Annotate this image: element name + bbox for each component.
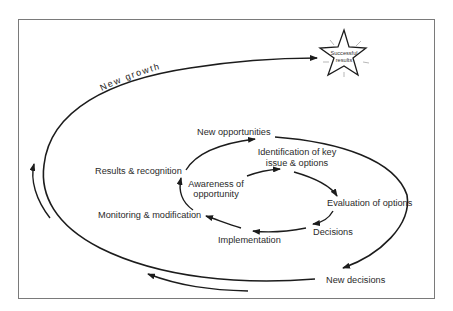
star-label-line1: Successful bbox=[330, 50, 357, 56]
implementation-label: Implementation bbox=[218, 235, 281, 245]
awareness-label-line2: opportunity bbox=[193, 189, 239, 199]
identification-label-line1: Identification of key bbox=[258, 147, 337, 157]
spiral-diagram: New growth Successful results New opport… bbox=[0, 0, 453, 311]
monitoring-label: Monitoring & modification bbox=[98, 210, 201, 220]
outer-left-arrow bbox=[33, 164, 50, 218]
new-decisions-label: New decisions bbox=[326, 275, 386, 285]
new-opportunities-label: New opportunities bbox=[197, 127, 271, 137]
successful-results-star: Successful results bbox=[320, 30, 369, 77]
star-label-line2: results bbox=[336, 57, 353, 63]
identification-label-line2: issue & options bbox=[266, 158, 329, 168]
decisions-label: Decisions bbox=[313, 227, 353, 237]
results-label: Results & recognition bbox=[95, 166, 182, 176]
evaluation-to-decisions-arrow bbox=[313, 211, 333, 224]
awareness-label-line1: Awareness of bbox=[188, 179, 244, 189]
new-growth-label: New growth bbox=[98, 61, 161, 93]
evaluation-label: Evaluation of options bbox=[327, 198, 413, 208]
implementation-to-monitoring-arrow bbox=[206, 216, 241, 228]
awareness-to-identification-arrow bbox=[247, 169, 280, 176]
decisions-to-implementation-arrow bbox=[253, 228, 306, 232]
identification-to-evaluation-arrow bbox=[294, 172, 337, 196]
results-to-new-opportunities-arrow bbox=[186, 139, 255, 170]
